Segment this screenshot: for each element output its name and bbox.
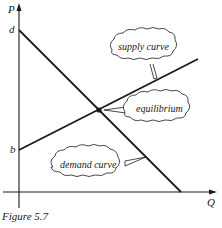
supply-callout-label: supply curve bbox=[118, 41, 169, 52]
equilibrium-callout-pointer bbox=[104, 107, 126, 113]
supply-intercept-label: b bbox=[10, 143, 16, 155]
equilibrium-callout: equilibrium bbox=[104, 90, 190, 122]
supply-callout: supply curve bbox=[110, 28, 176, 80]
demand-intercept-label: d bbox=[9, 23, 15, 35]
equilibrium-point bbox=[96, 107, 101, 112]
demand-callout: demand curve bbox=[51, 145, 146, 177]
demand-callout-pointer bbox=[125, 157, 146, 166]
supply-callout-pointer bbox=[150, 64, 157, 79]
y-axis-arrow-icon bbox=[17, 3, 22, 11]
figure-caption: Figure 5.7 bbox=[2, 210, 48, 222]
supply-demand-diagram: P Q d b supply curve equilibrium demand … bbox=[0, 0, 222, 228]
demand-callout-label: demand curve bbox=[60, 159, 117, 170]
equilibrium-callout-label: equilibrium bbox=[136, 103, 183, 114]
x-axis-arrow-icon bbox=[209, 190, 217, 195]
y-axis-label: P bbox=[7, 3, 15, 15]
x-axis-label: Q bbox=[207, 196, 215, 208]
